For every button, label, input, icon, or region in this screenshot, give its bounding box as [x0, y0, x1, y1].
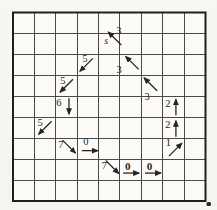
vector-label: 7 — [102, 160, 107, 171]
vector-label: 0 — [147, 160, 153, 172]
vector-label: 6 — [56, 97, 61, 108]
grid-paper — [13, 13, 206, 202]
vector-label: 7 — [58, 139, 63, 150]
vector-label: 3 — [117, 64, 122, 75]
scanned-figure-page: 3s53536252701700 — [0, 0, 217, 210]
vector-label: 0 — [83, 136, 88, 147]
vector-label: 3 — [144, 91, 149, 102]
vector-label: 1 — [166, 137, 171, 148]
vector-label: 5 — [82, 53, 87, 64]
vector-label: 2 — [165, 98, 170, 109]
ink-speck — [207, 202, 212, 206]
vector-label: 2 — [165, 119, 170, 130]
vector-label: 3 — [116, 25, 121, 36]
vector-label: 5 — [60, 75, 65, 86]
diagram-svg: 3s53536252701700 — [0, 0, 217, 210]
vector-label: 0 — [125, 160, 131, 172]
diagram-content: 3s53536252701700 — [13, 13, 211, 207]
vector-label: 5 — [37, 117, 42, 128]
start-label: s — [104, 35, 108, 46]
